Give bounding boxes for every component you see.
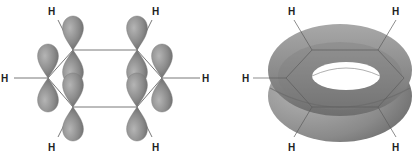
hydrogen-label: H bbox=[288, 6, 295, 17]
p-orbital-panel: H H H H H H bbox=[1, 6, 209, 153]
hydrogen-label: H bbox=[202, 73, 209, 84]
benzene-diagram: H H H H H H bbox=[0, 0, 412, 158]
hydrogen-label: H bbox=[48, 142, 55, 153]
hydrogen-label: H bbox=[1, 73, 8, 84]
hydrogen-label: H bbox=[392, 142, 399, 153]
sigma-bonds bbox=[14, 20, 200, 137]
hydrogen-label: H bbox=[152, 6, 159, 17]
hydrogen-label: H bbox=[152, 142, 159, 153]
hydrogen-label: H bbox=[242, 73, 249, 84]
torus-hole bbox=[312, 62, 380, 90]
hydrogen-label: H bbox=[392, 6, 399, 17]
p-orbital-lobes bbox=[38, 16, 173, 141]
hydrogen-label: H bbox=[288, 142, 295, 153]
hydrogen-label: H bbox=[48, 6, 55, 17]
pi-cloud-panel: H H H H H bbox=[242, 6, 412, 153]
hydrogen-labels-left: H H H H H H bbox=[1, 6, 209, 153]
